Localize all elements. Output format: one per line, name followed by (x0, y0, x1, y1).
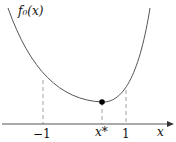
tick-label-x-star: x* (95, 125, 108, 139)
tick-label-minus-one: −1 (33, 127, 51, 141)
convex-function-plot (0, 0, 176, 142)
minimizer-point (99, 99, 105, 105)
function-label: f₀(x) (18, 4, 43, 18)
tick-label-one: 1 (122, 127, 130, 141)
x-axis-label: x (157, 125, 164, 139)
x-axis-arrow-icon (167, 121, 174, 127)
function-curve (8, 8, 150, 102)
